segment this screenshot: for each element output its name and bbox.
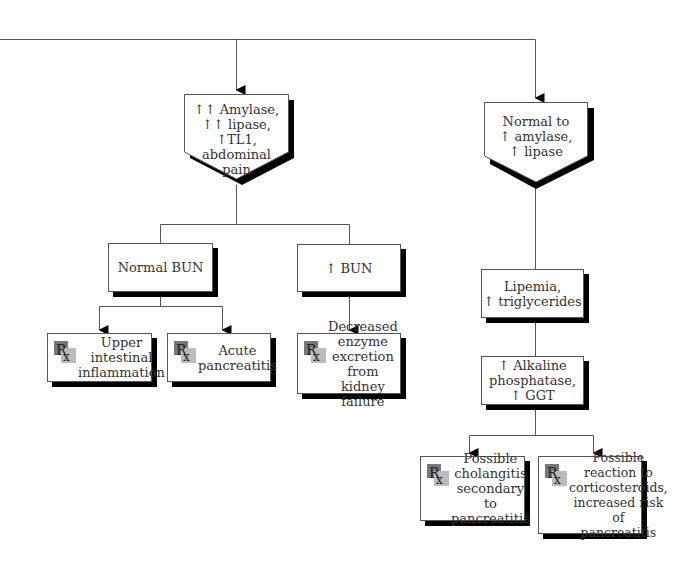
line: Upper xyxy=(78,335,165,350)
svg-text:x: x xyxy=(183,350,190,363)
normal-bun-node: Normal BUN xyxy=(108,243,213,292)
line: Possible xyxy=(569,450,668,465)
header-line: ↑↑ lipase, xyxy=(184,117,289,132)
svg-text:x: x xyxy=(313,350,320,363)
line: ↑ triglycerides xyxy=(483,294,581,309)
line: reaction to xyxy=(569,465,668,480)
rx-icon: R x xyxy=(54,341,76,363)
node-label: Possible reaction to corticosteroids, in… xyxy=(569,450,668,540)
node-label: Normal BUN xyxy=(118,260,204,275)
node-label: Lipemia, ↑ triglycerides xyxy=(483,279,581,309)
line: secondary to xyxy=(451,481,530,511)
line: kidney failure xyxy=(328,379,398,409)
line: increased risk of xyxy=(569,495,668,525)
left-header-node: ↑↑ Amylase, ↑↑ lipase, ↑TL1, abdominal p… xyxy=(184,94,296,192)
line: inflammation xyxy=(78,365,165,380)
decreased-enzyme-node: R x Decreased enzyme excretion from kidn… xyxy=(297,333,401,394)
line: cholangitis xyxy=(451,466,530,481)
line: ↑ Alkaline xyxy=(489,358,576,373)
line: phosphatase, xyxy=(489,373,576,388)
header-line: pain xyxy=(184,162,289,177)
upper-intestinal-node: R x Upper intestinal inflammation xyxy=(47,333,152,382)
line: Lipemia, xyxy=(483,279,581,294)
lipemia-node: Lipemia, ↑ triglycerides xyxy=(481,269,584,318)
alkaline-phosphatase-node: ↑ Alkaline phosphatase, ↑ GGT xyxy=(481,356,584,405)
header-line: ↑TL1, xyxy=(184,132,289,147)
svg-text:x: x xyxy=(63,350,70,363)
rx-icon: R x xyxy=(427,464,449,486)
header-line: abdominal xyxy=(184,147,289,162)
rx-icon: R x xyxy=(545,464,567,486)
rx-icon: R x xyxy=(174,341,196,363)
rx-icon: R x xyxy=(304,341,326,363)
line: pancreatitis xyxy=(569,525,668,540)
header-line: Normal to xyxy=(484,114,588,129)
line: Possible xyxy=(451,451,530,466)
node-label: Upper intestinal inflammation xyxy=(78,335,165,380)
acute-pancreatitis-node: R x Acute pancreatitis xyxy=(167,333,271,382)
node-label: ↑ BUN xyxy=(326,261,373,276)
corticosteroids-node: R x Possible reaction to corticosteroids… xyxy=(538,456,642,534)
line: Acute xyxy=(198,343,277,358)
line: Decreased xyxy=(328,319,398,334)
node-label: ↑ Alkaline phosphatase, ↑ GGT xyxy=(489,358,576,403)
line: pancreatitis xyxy=(198,358,277,373)
right-header-text: Normal to ↑ amylase, ↑ lipase xyxy=(484,114,588,159)
svg-text:x: x xyxy=(436,473,443,486)
header-line: ↑ amylase, xyxy=(484,129,588,144)
line: pancreatitis xyxy=(451,511,530,526)
line: excretion from xyxy=(328,349,398,379)
svg-text:x: x xyxy=(554,473,561,486)
header-line: ↑ lipase xyxy=(484,144,588,159)
node-label: Decreased enzyme excretion from kidney f… xyxy=(328,319,398,409)
node-label: Possible cholangitis secondary to pancre… xyxy=(451,451,530,526)
cholangitis-node: R x Possible cholangitis secondary to pa… xyxy=(420,456,525,521)
up-bun-node: ↑ BUN xyxy=(297,244,401,292)
left-header-text: ↑↑ Amylase, ↑↑ lipase, ↑TL1, abdominal p… xyxy=(184,102,289,177)
line: enzyme xyxy=(328,334,398,349)
line: intestinal xyxy=(78,350,165,365)
header-line: ↑↑ Amylase, xyxy=(184,102,289,117)
right-header-node: Normal to ↑ amylase, ↑ lipase xyxy=(484,102,596,190)
line: ↑ GGT xyxy=(489,388,576,403)
line: corticosteroids, xyxy=(569,480,668,495)
node-label: Acute pancreatitis xyxy=(198,343,277,373)
